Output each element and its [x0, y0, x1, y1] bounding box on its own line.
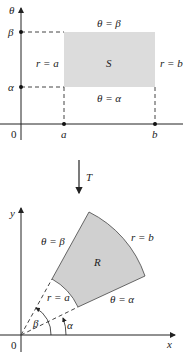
a-tick-label: a	[61, 128, 67, 140]
alpha-point	[19, 85, 23, 89]
top-rectangle-diagram: θ β α 0 a b θ = β θ = α r = a r = b S	[0, 4, 183, 140]
alpha-angle-arc	[63, 318, 66, 335]
x-axis-label: x	[166, 338, 172, 350]
bottom-polar-diagram: y x 0 θ = β r = b r = a θ = α R β α	[0, 207, 175, 352]
origin-label-bottom: 0	[11, 339, 17, 351]
right-edge-label: r = b	[160, 57, 183, 69]
top-edge-label: θ = β	[97, 17, 121, 29]
origin-label: 0	[11, 128, 17, 140]
theta-axis-label: θ	[9, 4, 15, 16]
left-edge-label: r = a	[36, 57, 59, 69]
a-point	[62, 122, 66, 126]
transform-label: T	[86, 171, 93, 183]
beta-tick-label: β	[7, 26, 14, 38]
polar-transform-diagram: θ β α 0 a b θ = β θ = α r = a r = b S T …	[0, 0, 183, 352]
b-point	[153, 122, 157, 126]
alpha-tick-label: α	[8, 81, 14, 93]
b-tick-label: b	[152, 128, 158, 140]
y-axis-label: y	[9, 207, 15, 219]
bottom-edge-label: θ = α	[97, 92, 121, 104]
region-s-label: S	[106, 57, 112, 69]
transform-arrow: T	[79, 160, 93, 193]
region-r-label: R	[93, 256, 101, 268]
outer-arc-label: r = b	[131, 231, 154, 243]
inner-arc-label: r = a	[47, 291, 70, 303]
beta-angle-label: β	[32, 317, 39, 329]
alpha-angle-label: α	[67, 319, 73, 331]
beta-ray-label: θ = β	[41, 235, 65, 247]
alpha-ray-label: θ = α	[110, 293, 134, 305]
beta-point	[19, 30, 23, 34]
